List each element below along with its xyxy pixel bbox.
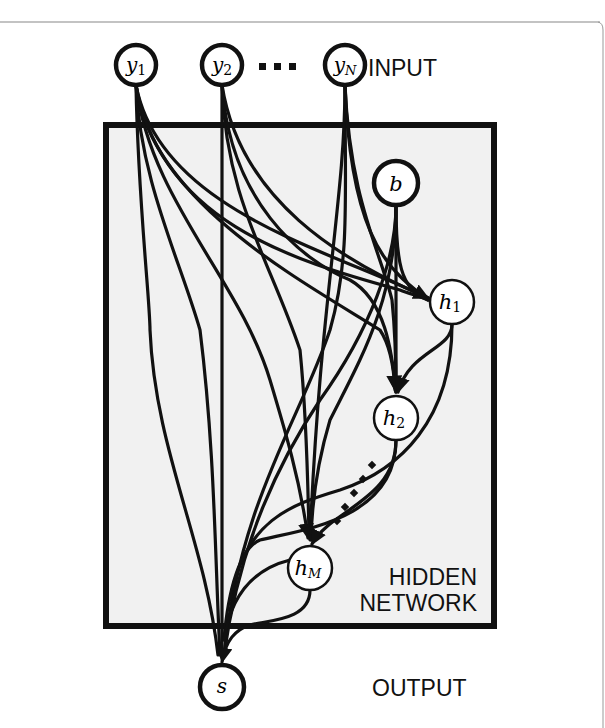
- svg-text:b: b: [389, 172, 402, 196]
- node-hM: hM: [288, 546, 332, 590]
- node-b: b: [374, 161, 418, 205]
- node-h2: h2: [374, 396, 418, 440]
- node-y2: y2: [202, 45, 242, 85]
- svg-text:s: s: [217, 674, 227, 698]
- node-y1: y1: [116, 45, 156, 85]
- label-hidden: HIDDEN: [389, 564, 477, 590]
- node-yN: yN: [325, 45, 365, 85]
- label-output: OUTPUT: [372, 675, 467, 701]
- frame-right-line: [598, 22, 603, 728]
- node-h1: h1: [430, 280, 474, 324]
- input-ellipsis: [259, 63, 296, 70]
- node-s: s: [200, 665, 244, 709]
- network-diagram: y1 y2 yN b h1 h2 hM s INPUT HIDDEN NETWO…: [0, 0, 605, 728]
- label-network: NETWORK: [359, 590, 477, 616]
- label-input: INPUT: [368, 55, 437, 81]
